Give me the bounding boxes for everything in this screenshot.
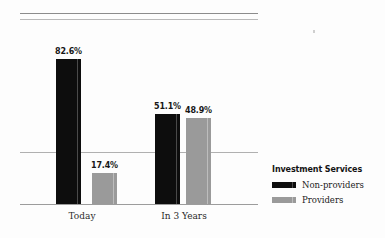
decorative-rule-bottom — [20, 19, 258, 20]
bar-in-3-years-non-providers[interactable]: 51.1% — [155, 114, 180, 204]
legend-label-providers: Providers — [302, 195, 343, 205]
bar-highlight-stripe — [77, 59, 78, 204]
legend-item-providers[interactable]: Providers — [272, 195, 382, 205]
decorative-rule-top — [20, 13, 258, 14]
bar-highlight-stripe — [113, 173, 114, 204]
axis-baseline — [20, 204, 258, 205]
legend-swatch-providers — [272, 197, 296, 203]
x-axis-label-today: Today — [69, 211, 96, 221]
legend-item-non-providers[interactable]: Non-providers — [272, 180, 382, 190]
legend-label-non-providers: Non-providers — [302, 180, 364, 190]
bar-value-label: 48.9% — [185, 106, 212, 115]
legend-swatch-stripe — [292, 197, 293, 203]
legend-swatch-stripe — [292, 182, 293, 188]
bar-value-label: 17.4% — [91, 161, 118, 170]
bar-in-3-years-providers[interactable]: 48.9% — [186, 118, 211, 204]
bar-today-providers[interactable]: 17.4% — [92, 173, 117, 204]
scan-artifact-speck — [313, 30, 315, 33]
x-axis-label-in-3-years: In 3 Years — [161, 211, 207, 221]
legend-swatch-non-providers — [272, 182, 296, 188]
bar-chart-figure: 82.6% 17.4% 51.1% 48.9% Today In 3 Years… — [0, 0, 385, 238]
plot-area: 82.6% 17.4% 51.1% 48.9% Today In 3 Years — [20, 28, 258, 205]
bar-highlight-stripe — [176, 114, 177, 204]
bar-highlight-stripe — [207, 118, 208, 204]
bar-today-non-providers[interactable]: 82.6% — [56, 59, 81, 204]
legend: Investment Services Non-providers Provid… — [272, 165, 382, 210]
bar-value-label: 51.1% — [154, 102, 181, 111]
bar-value-label: 82.6% — [55, 47, 82, 56]
legend-title: Investment Services — [272, 165, 382, 174]
